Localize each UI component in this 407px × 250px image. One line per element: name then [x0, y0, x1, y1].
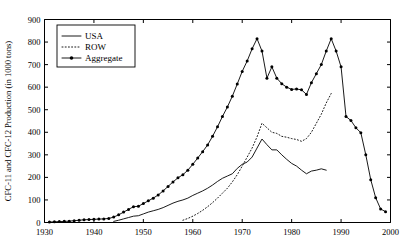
y-tick-label: 800 [28, 37, 41, 47]
y-tick-label: 400 [28, 127, 41, 137]
series-marker-aggregate [58, 220, 61, 223]
y-axis-title: CFC-11 and CFC-12 Production (in 1000 to… [3, 41, 13, 201]
series-marker-aggregate [147, 199, 150, 202]
series-marker-aggregate [320, 63, 323, 66]
series-marker-aggregate [246, 60, 249, 63]
y-tick-label: 900 [28, 15, 41, 25]
series-marker-aggregate [260, 50, 263, 53]
series-line-usa [114, 139, 327, 221]
series-marker-aggregate [176, 176, 179, 179]
series-marker-aggregate [325, 50, 328, 53]
legend-label-aggregate: Aggregate [85, 53, 122, 63]
series-marker-aggregate [364, 153, 367, 156]
series-marker-aggregate [270, 65, 273, 68]
series-marker-aggregate [285, 86, 288, 89]
x-tick-label: 2000 [382, 227, 399, 237]
series-marker-aggregate [300, 88, 303, 91]
series-marker-aggregate [211, 135, 214, 138]
series-marker-aggregate [157, 193, 160, 196]
legend-label-row: ROW [85, 42, 107, 52]
x-tick-label: 1970 [234, 227, 251, 237]
series-marker-aggregate [216, 125, 219, 128]
x-tick-label: 1940 [85, 227, 102, 237]
series-marker-aggregate [162, 189, 165, 192]
series-marker-aggregate [73, 219, 76, 222]
x-tick-label: 1930 [36, 227, 53, 237]
series-marker-aggregate [379, 207, 382, 210]
series-marker-aggregate [142, 202, 145, 205]
series-marker-aggregate [256, 37, 259, 40]
series-line-row [183, 93, 331, 220]
series-marker-aggregate [330, 37, 333, 40]
x-tick-label: 1950 [135, 227, 152, 237]
series-marker-aggregate [137, 205, 140, 208]
series-marker-aggregate [310, 81, 313, 84]
y-tick-label: 700 [28, 60, 41, 70]
series-marker-aggregate [191, 163, 194, 166]
series-marker-aggregate [68, 220, 71, 223]
series-marker-aggregate [92, 218, 95, 221]
series-marker-aggregate [226, 106, 229, 109]
chart-figure: CFC-11 and CFC-12 Production (in 1000 to… [0, 0, 407, 250]
series-marker-aggregate [167, 185, 170, 188]
chart-plot-area: CFC-11 and CFC-12 Production (in 1000 to… [0, 0, 407, 250]
y-tick-label: 600 [28, 82, 41, 92]
series-marker-aggregate [122, 211, 125, 214]
x-tick-label: 1990 [333, 227, 350, 237]
series-marker-aggregate [251, 47, 254, 50]
series-marker-aggregate [83, 218, 86, 221]
series-marker-aggregate [196, 156, 199, 159]
series-marker-aggregate [340, 65, 343, 68]
series-marker-aggregate [78, 219, 81, 222]
y-tick-label: 500 [28, 105, 41, 115]
series-marker-aggregate [97, 218, 100, 221]
y-tick-label: 300 [28, 150, 41, 160]
series-marker-aggregate [349, 119, 352, 122]
series-marker-aggregate [369, 178, 372, 181]
chart-legend: USAROWAggregate [57, 25, 135, 67]
series-marker-aggregate [241, 70, 244, 73]
series-marker-aggregate [275, 77, 278, 80]
series-marker-aggregate [221, 115, 224, 118]
series-marker-aggregate [102, 217, 105, 220]
series-marker-aggregate [384, 210, 387, 213]
legend-sample-marker [70, 56, 74, 60]
x-tick-label: 1960 [184, 227, 201, 237]
series-marker-aggregate [345, 115, 348, 118]
series-marker-aggregate [315, 72, 318, 75]
series-marker-aggregate [152, 197, 155, 200]
series-marker-aggregate [201, 150, 204, 153]
series-marker-aggregate [48, 221, 51, 224]
series-marker-aggregate [265, 77, 268, 80]
series-marker-aggregate [172, 180, 175, 183]
series-marker-aggregate [127, 208, 130, 211]
y-tick-label: 100 [28, 195, 41, 205]
series-marker-aggregate [87, 218, 90, 221]
series-marker-aggregate [231, 95, 234, 98]
series-marker-aggregate [305, 93, 308, 96]
series-marker-aggregate [132, 205, 135, 208]
y-tick-label: 200 [28, 172, 41, 182]
series-marker-aggregate [186, 169, 189, 172]
series-marker-aggregate [374, 196, 377, 199]
series-marker-aggregate [181, 173, 184, 176]
series-marker-aggregate [354, 126, 357, 129]
series-marker-aggregate [206, 143, 209, 146]
series-marker-aggregate [359, 131, 362, 134]
series-marker-aggregate [53, 220, 56, 223]
series-marker-aggregate [295, 87, 298, 90]
series-marker-aggregate [117, 213, 120, 216]
series-marker-aggregate [335, 50, 338, 53]
x-tick-label: 1980 [283, 227, 300, 237]
series-marker-aggregate [112, 216, 115, 219]
series-marker-aggregate [290, 88, 293, 91]
legend-label-usa: USA [85, 31, 104, 41]
series-marker-aggregate [236, 83, 239, 86]
series-marker-aggregate [107, 217, 110, 220]
y-axis-title-text: CFC-11 and CFC-12 Production (in 1000 to… [3, 41, 13, 201]
series-marker-aggregate [63, 220, 66, 223]
series-marker-aggregate [280, 82, 283, 85]
